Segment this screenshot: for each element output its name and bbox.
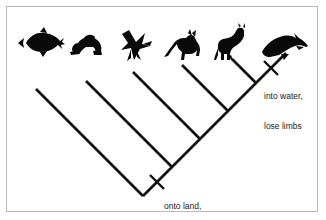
annotation-onto-land: onto land, gain limbs [164,181,202,220]
tree-branches [36,53,286,196]
giraffe-silhouette [214,23,245,60]
fish-silhouette [18,27,65,57]
frog-silhouette [70,35,102,55]
branch-frog [86,81,172,167]
annotation-into-water: into water, lose limbs [264,71,303,151]
annotation-onto-land-line1: onto land, [164,201,202,211]
annotation-into-water-line2: lose limbs [264,121,303,131]
branch-giraffe [232,59,256,83]
dolphin-silhouette [262,33,308,60]
taxon-silhouettes [18,23,308,61]
branch-bird [133,72,200,139]
annotation-into-water-line1: into water, [264,91,303,101]
cladogram-figure: into water, lose limbs onto land, gain l… [0,0,326,220]
kangaroo-silhouette [164,29,200,60]
branch-kangaroo [182,65,228,111]
branch-fish [36,89,143,196]
bird-silhouette [121,30,152,61]
